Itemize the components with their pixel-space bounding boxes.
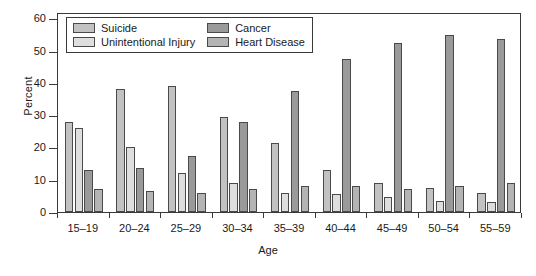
y-axis-tick-mark <box>49 213 57 214</box>
bar <box>374 183 382 212</box>
y-axis-tick-label: 50 <box>16 46 46 57</box>
y-axis-tick-label: 20 <box>16 142 46 153</box>
bar <box>229 183 237 212</box>
bar <box>436 201 444 212</box>
y-axis-tick-label: 0 <box>16 207 46 218</box>
legend-entry: Unintentional Injury <box>73 36 195 48</box>
x-axis-title: Age <box>0 244 536 256</box>
x-axis-tick-mark <box>521 213 522 218</box>
legend-label: Heart Disease <box>235 36 305 48</box>
legend-entry: Cancer <box>207 22 305 34</box>
x-axis-tick-mark <box>263 213 264 218</box>
bar <box>487 202 495 212</box>
x-axis-tick-mark <box>212 213 213 218</box>
legend-swatch <box>73 23 95 33</box>
bar <box>126 147 134 212</box>
bar <box>445 35 453 212</box>
bar <box>426 188 434 212</box>
y-axis-title: Percent <box>22 46 34 146</box>
y-axis-tick-label: 40 <box>16 78 46 89</box>
x-axis-tick-mark <box>418 213 419 218</box>
bar <box>477 193 485 212</box>
x-axis-tick-mark <box>160 213 161 218</box>
bar <box>178 173 186 212</box>
y-axis-tick-mark <box>49 84 57 85</box>
bar <box>291 91 299 212</box>
y-axis-tick-mark <box>49 19 57 20</box>
bar <box>168 86 176 212</box>
bar <box>352 186 360 212</box>
bar <box>332 194 340 212</box>
legend-entry: Suicide <box>73 22 195 34</box>
bar <box>75 128 83 212</box>
x-axis-tick-mark <box>57 213 58 218</box>
bar <box>116 89 124 212</box>
bar <box>323 170 331 212</box>
y-axis-tick-mark <box>49 181 57 182</box>
bar <box>497 39 505 212</box>
x-axis-tick-mark <box>469 213 470 218</box>
legend-swatch <box>207 23 229 33</box>
legend-label: Unintentional Injury <box>101 36 195 48</box>
x-axis-tick-mark <box>109 213 110 218</box>
legend-label: Cancer <box>235 22 270 34</box>
y-axis-tick-label: 30 <box>16 110 46 121</box>
bar <box>394 43 402 212</box>
bar <box>84 170 92 212</box>
y-axis-tick-label: 60 <box>16 13 46 24</box>
bar <box>65 122 73 212</box>
bar-chart-figure: Percent 0102030405060 15–1920–2425–2930–… <box>0 0 536 276</box>
bar <box>281 193 289 212</box>
bar <box>455 186 463 212</box>
bar <box>220 117 228 212</box>
bar <box>507 183 515 212</box>
legend-swatch <box>207 37 229 47</box>
bar <box>249 189 257 212</box>
bar <box>342 59 350 212</box>
legend-swatch <box>73 37 95 47</box>
bar <box>239 122 247 212</box>
bar <box>136 168 144 212</box>
x-axis-tick-mark <box>366 213 367 218</box>
bar <box>197 193 205 212</box>
bar <box>94 189 102 212</box>
y-axis-tick-mark <box>49 116 57 117</box>
legend-label: Suicide <box>101 22 137 34</box>
bar <box>146 191 154 212</box>
bar <box>271 143 279 212</box>
bar <box>384 197 392 212</box>
x-axis-category-label: 55–59 <box>465 222 525 234</box>
chart-legend: SuicideCancerUnintentional InjuryHeart D… <box>66 17 313 53</box>
bar <box>301 186 309 212</box>
legend-entry: Heart Disease <box>207 36 305 48</box>
bar <box>188 156 196 212</box>
y-axis-tick-mark <box>49 148 57 149</box>
y-axis-tick-label: 10 <box>16 175 46 186</box>
bar <box>404 189 412 212</box>
y-axis-tick-mark <box>49 52 57 53</box>
x-axis-tick-mark <box>315 213 316 218</box>
